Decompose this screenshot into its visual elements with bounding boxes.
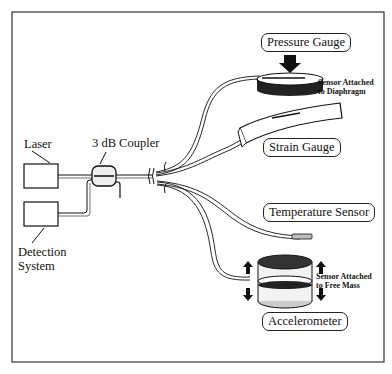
coupler-label: 3 dB Coupler [92,136,159,150]
detection-label-line2: System [18,259,55,273]
frame-border [12,12,384,362]
temperature-probe [292,234,312,239]
pressure-gauge-label: Pressure Gauge [261,33,351,52]
pressure-arrow-icon [279,55,301,73]
accelerometer-body [258,255,312,308]
pressure-note-line1: Sensor Attached [318,78,374,87]
laser-label: Laser [24,137,52,151]
accel-note-line1: Sensor Attached [316,272,372,281]
detection-label-line1: Detection [18,245,67,259]
laser-box [24,164,58,188]
detection-box [24,202,58,226]
pressure-note-line2: to Diaphragm [318,87,366,96]
accel-note-line2: to Free Mass [316,281,360,290]
temperature-sensor-label: Temperature Sensor [263,203,375,222]
strain-gauge-label: Strain Gauge [263,138,341,157]
strain-bar [240,103,342,143]
accelerometer-label: Accelerometer [262,312,348,331]
